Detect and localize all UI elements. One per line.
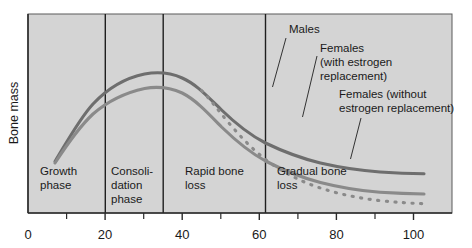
x-tick-label-60: 60 [252,227,266,242]
annotation-females-without-line2: estrogen replacement) [339,102,454,114]
phase-label-consolidation-line3: phase [111,193,142,205]
phase-label-consolidation-line1: Consoli- [111,165,153,177]
x-tick-label-0: 0 [24,227,31,242]
phase-label-rapid-line1: Rapid bone [185,165,244,177]
phase-label-consolidation-line2: dation [111,179,142,191]
annotation-males-label: Males [289,23,320,35]
y-axis-title: Bone mass [7,82,21,145]
annotation-females-with-line2: (with estrogen [320,56,392,68]
phase-label-gradual-line1: Gradual bone [277,165,347,177]
annotation-females-with-line3: replacement) [320,70,387,82]
annotation-females-without-line1: Females (without [339,88,427,100]
x-tick-label-80: 80 [329,227,343,242]
x-tick-label-40: 40 [175,227,189,242]
phase-label-gradual-line2: loss [277,179,298,191]
x-tick-label-100: 100 [403,227,425,242]
chart-svg: 0 20 40 60 80 100 Bone mass Growth phase… [0,0,472,248]
phase-label-rapid-line2: loss [185,179,206,191]
phase-label-growth-line1: Growth [40,165,77,177]
bone-mass-chart-figure: 0 20 40 60 80 100 Bone mass Growth phase… [0,0,472,248]
annotation-females-with-line1: Females [320,42,364,54]
phase-label-growth-line2: phase [40,179,71,191]
x-tick-label-20: 20 [98,227,112,242]
